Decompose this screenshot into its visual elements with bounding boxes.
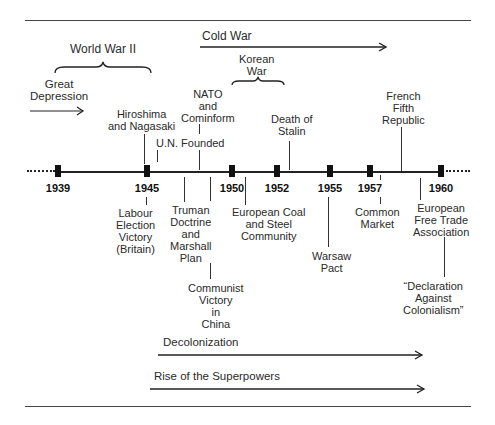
tick-1939 <box>55 165 61 177</box>
common-market-connector-top <box>380 175 381 180</box>
year-label-1945: 1945 <box>135 182 159 194</box>
period-label-decolonization: Decolonization <box>163 336 238 348</box>
tick-1952 <box>274 165 280 177</box>
great-depression-arrow-icon <box>30 106 86 116</box>
tick-1950 <box>229 165 235 177</box>
decolonization-arrow-icon <box>158 350 426 360</box>
hiroshima-connector <box>144 134 145 164</box>
un-founded-connector <box>157 150 158 162</box>
rise-of-superpowers-arrow-icon <box>150 384 428 394</box>
tick-1955 <box>327 165 333 177</box>
event-hiroshima-nagasaki: Hiroshima and Nagasaki <box>108 108 175 132</box>
top-rule <box>25 20 471 21</box>
ecsc-connector <box>245 177 246 205</box>
event-efta: European Free Trade Association <box>413 202 469 238</box>
nato-connector <box>199 124 200 134</box>
communist-victory-connector-top <box>210 177 211 201</box>
french-fifth-republic-connector <box>401 127 402 171</box>
event-communist-victory-china: Communist Victory in China <box>188 282 244 330</box>
bottom-rule <box>25 406 471 407</box>
year-label-1939: 1939 <box>46 182 70 194</box>
truman-connector <box>184 177 185 202</box>
declaration-connector <box>444 237 445 277</box>
year-label-1950: 1950 <box>220 182 244 194</box>
period-label-rise-of-superpowers: Rise of the Superpowers <box>154 370 280 382</box>
tick-1945 <box>144 165 150 177</box>
event-declaration-against-colonialism: “Declaration Against Colonialism” <box>403 280 464 316</box>
world-war-ii-brace-icon <box>54 62 152 74</box>
event-death-of-stalin: Death of Stalin <box>271 113 313 137</box>
event-truman-doctrine: Truman Doctrine and Marshall Plan <box>170 204 212 264</box>
period-label-cold-war: Cold War <box>202 30 252 42</box>
event-common-market: Common Market <box>355 206 400 230</box>
event-warsaw-pact: Warsaw Pact <box>312 250 351 274</box>
labour-connector <box>146 197 147 205</box>
communist-victory-connector <box>210 263 211 279</box>
period-label-great-depression: Great Depression <box>30 78 88 102</box>
year-label-1960: 1960 <box>429 182 453 194</box>
event-un-founded: U.N. Founded <box>156 137 224 149</box>
timeline-axis <box>58 171 441 173</box>
tick-1957 <box>367 165 373 177</box>
axis-dotted-start <box>27 170 55 172</box>
year-label-1955: 1955 <box>318 182 342 194</box>
year-label-1957: 1957 <box>358 182 382 194</box>
warsaw-pact-connector <box>328 197 329 247</box>
death-of-stalin-connector <box>289 141 290 170</box>
event-nato-cominform: NATO and Cominform <box>181 88 235 124</box>
axis-dotted-end <box>446 170 470 172</box>
cold-war-arrow-icon <box>200 42 390 52</box>
common-market-connector <box>380 197 381 204</box>
nato-axis-connector <box>199 150 200 170</box>
event-european-coal-steel: European Coal and Steel Community <box>232 206 305 242</box>
event-labour-election: Labour Election Victory (Britain) <box>116 207 155 255</box>
event-french-fifth-republic: French Fifth Republic <box>382 90 425 126</box>
year-label-1952: 1952 <box>265 182 289 194</box>
efta-connector <box>420 178 421 200</box>
period-label-korean-war: Korean War <box>239 53 274 77</box>
tick-1960 <box>438 165 444 177</box>
period-label-world-war-ii: World War II <box>70 43 136 55</box>
korean-war-brace-icon <box>231 77 287 86</box>
